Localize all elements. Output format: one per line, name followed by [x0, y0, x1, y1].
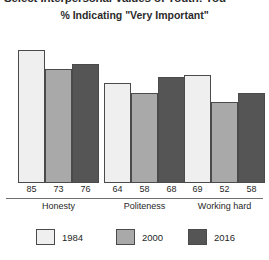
legend-item-2000: 2000	[116, 229, 163, 245]
bar-politeness-1984	[104, 83, 131, 183]
value-honesty-2000: 73	[45, 184, 72, 194]
legend-label-2000: 2000	[142, 232, 163, 243]
value-group-working-hard: 69 52 58	[184, 184, 265, 194]
bar-working-hard-1984	[184, 75, 211, 183]
category-label-politeness: Politeness	[104, 201, 185, 211]
value-working-hard-2016: 58	[238, 184, 265, 194]
chart-legend: 1984 2000 2016	[0, 229, 269, 251]
value-labels-row: 85 73 76 64 58 68 69 52 58	[0, 184, 269, 197]
value-working-hard-1984: 69	[184, 184, 211, 194]
legend-swatch-2000	[116, 229, 135, 245]
value-honesty-1984: 85	[18, 184, 45, 194]
legend-item-2016: 2016	[188, 229, 235, 245]
bar-honesty-2016	[72, 64, 99, 183]
legend-label-2016: 2016	[214, 232, 235, 243]
legend-item-1984: 1984	[36, 229, 83, 245]
value-working-hard-2000: 52	[211, 184, 238, 194]
value-group-honesty: 85 73 76	[18, 184, 99, 194]
plot-area	[0, 27, 269, 183]
chart-figure: Select Interpersonal Values of Youth: Yo…	[0, 0, 269, 260]
chart-subtitle: % Indicating "Very Important"	[0, 9, 269, 21]
legend-swatch-2016	[188, 229, 207, 245]
legend-label-1984: 1984	[62, 232, 83, 243]
value-politeness-2000: 58	[131, 184, 158, 194]
bar-working-hard-2016	[238, 93, 265, 183]
bar-group-politeness	[104, 27, 185, 183]
chart-title: Select Interpersonal Values of Youth: Yo…	[4, 0, 269, 4]
legend-swatch-1984	[36, 229, 55, 245]
category-label-honesty: Honesty	[18, 201, 99, 211]
value-politeness-1984: 64	[104, 184, 131, 194]
bar-group-working-hard	[184, 27, 265, 183]
value-group-politeness: 64 58 68	[104, 184, 185, 194]
bar-politeness-2016	[158, 77, 185, 183]
category-label-working-hard: Working hard	[184, 201, 265, 211]
x-axis-line	[6, 198, 263, 199]
bar-politeness-2000	[131, 93, 158, 183]
value-politeness-2016: 68	[158, 184, 185, 194]
bar-group-honesty	[18, 27, 99, 183]
value-honesty-2016: 76	[72, 184, 99, 194]
category-labels: Honesty Politeness Working hard	[0, 201, 269, 215]
bar-honesty-1984	[18, 50, 45, 183]
bar-working-hard-2000	[211, 102, 238, 183]
bar-honesty-2000	[45, 69, 72, 183]
chart-title-clip: Select Interpersonal Values of Youth: Yo…	[0, 0, 269, 9]
